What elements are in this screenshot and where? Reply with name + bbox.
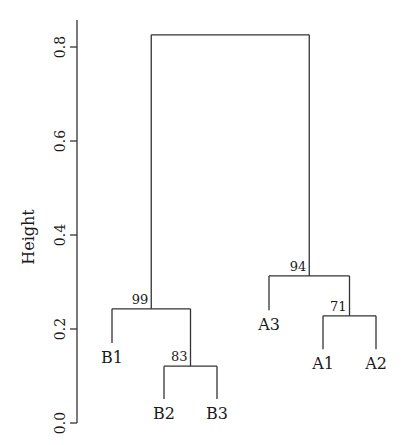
y-axis: 0.00.20.40.60.8	[52, 20, 77, 434]
support-label: 71	[330, 299, 347, 314]
y-axis-title: Height	[19, 209, 38, 265]
support-label: 99	[132, 292, 149, 307]
y-tick-label: 0.4	[52, 224, 68, 246]
support-label: 94	[290, 259, 307, 274]
leaf-label-a1: A1	[311, 354, 334, 373]
y-tick-label: 0.8	[52, 36, 68, 58]
dendrogram-tree	[112, 35, 376, 399]
y-tick-label: 0.0	[52, 412, 68, 434]
dendrogram-labels: B1B2B3A3A1A283997194	[101, 259, 387, 423]
leaf-label-b2: B2	[153, 404, 175, 423]
leaf-label-a2: A2	[364, 354, 387, 373]
support-label: 83	[171, 349, 188, 364]
leaf-label-a3: A3	[257, 315, 280, 334]
leaf-label-b1: B1	[101, 348, 123, 367]
y-tick-label: 0.2	[52, 318, 68, 340]
y-tick-label: 0.6	[52, 130, 68, 152]
leaf-label-b3: B3	[206, 404, 228, 423]
dendrogram-chart: 0.00.20.40.60.8 Height B1B2B3A3A1A283997…	[0, 0, 403, 445]
